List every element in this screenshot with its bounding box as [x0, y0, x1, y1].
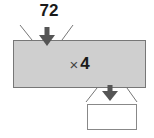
down-arrow-icon	[39, 27, 55, 46]
answer-box[interactable]	[87, 104, 137, 130]
down-arrow-icon	[102, 85, 118, 101]
